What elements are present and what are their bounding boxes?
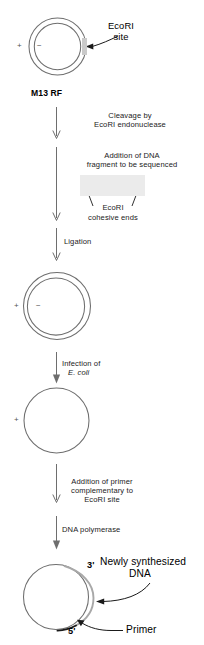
step-dna-polymerase-label: DNA polymerase — [62, 526, 120, 535]
arrow-addition-of-dna — [53, 147, 60, 221]
single-strand-plus-sign: + — [14, 415, 19, 424]
arrow-ligation — [53, 228, 60, 261]
three-prime-end-label: 3' — [87, 560, 95, 571]
step-infection-line2: E. coli — [68, 369, 162, 378]
five-prime-end-label: 5' — [68, 626, 76, 637]
ligated-plus-strand-sign: + — [14, 301, 19, 310]
newly-synthesized-dna-callout-arrow — [96, 583, 150, 605]
step-primer-addition-line3: EcoRI site — [60, 496, 144, 505]
m13-plus-strand-sign: + — [17, 41, 22, 50]
m13-rf-label: M13 RF — [31, 88, 62, 98]
single-strand-circle — [24, 388, 89, 453]
stage-ligated-circle — [24, 273, 91, 340]
step-cleavage-line2: EcoRI endonuclease — [64, 121, 196, 130]
ligated-outer-strand-circle — [24, 273, 91, 340]
diagram-canvas: EcoRI site + − M13 RF Cleavage by EcoRI … — [0, 0, 204, 645]
template-circle — [24, 565, 89, 630]
step-addition-of-dna-line2: fragment to be sequenced — [62, 161, 202, 170]
newly-synthesized-dna-label-line2: DNA — [100, 568, 180, 580]
cohesive-ends-label-line2: cohesive ends — [76, 214, 150, 223]
newly-synthesized-dna-arc — [65, 566, 94, 626]
dna-fragment-highlight-box — [80, 175, 145, 196]
ecori-site-callout-line2: site — [88, 31, 154, 42]
m13-minus-strand-sign: − — [37, 41, 42, 50]
ligated-minus-strand-sign: − — [36, 301, 41, 310]
step-ligation-label: Ligation — [64, 238, 91, 247]
stage-single-strand-circle — [24, 388, 89, 453]
arrow-infection — [53, 352, 60, 384]
arrow-dna-polymerase — [53, 516, 60, 550]
ecori-site-mark — [82, 38, 87, 55]
cohesive-ends-label-line1: EcoRI — [82, 204, 144, 213]
arrow-cleavage — [53, 107, 60, 139]
primer-label: Primer — [126, 624, 198, 636]
newly-synthesized-dna-label-line1: Newly synthesized — [100, 556, 204, 568]
primer-callout-arrow — [77, 620, 123, 631]
ecori-site-callout-line1: EcoRI — [88, 20, 154, 31]
